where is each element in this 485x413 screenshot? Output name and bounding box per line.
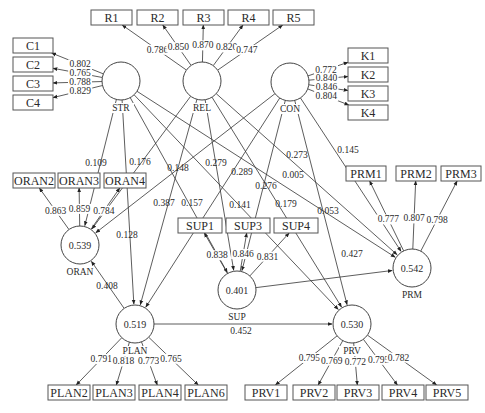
loading-value: 0.772 <box>345 357 367 367</box>
loading-value: 0.747 <box>236 45 258 55</box>
path-coefficient: 0.128 <box>116 230 138 240</box>
loading-value: 0.804 <box>316 91 338 101</box>
indicator-label: ORAN4 <box>105 174 145 188</box>
latent-circle <box>271 63 309 101</box>
indicator-c1: C1 <box>13 38 53 53</box>
path-sup-prm <box>256 270 392 287</box>
indicator-sup4: SUP4 <box>274 218 318 233</box>
latent-prm: 0.542PRM <box>393 249 431 300</box>
indicator-prm2: PRM2 <box>396 166 436 181</box>
indicator-label: PRM3 <box>445 167 476 181</box>
indicator-label: PLAN6 <box>187 386 224 400</box>
r-squared: 0.539 <box>69 240 92 251</box>
indicator-label: R5 <box>286 11 300 25</box>
indicator-prv4: PRV4 <box>382 385 424 400</box>
indicator-r2: R2 <box>137 10 178 25</box>
latent-label: PLAN <box>123 346 148 356</box>
indicator-label: R3 <box>196 11 210 25</box>
latent-label: PRM <box>402 290 423 300</box>
loading-value: 0.773 <box>138 356 160 366</box>
indicator-label: K2 <box>361 68 376 82</box>
path-coefficient: 0.387 <box>153 198 175 208</box>
loading-value: 0.769 <box>321 356 343 366</box>
path-coefficient: 0.427 <box>341 249 363 259</box>
loading-value: 0.829 <box>70 86 92 96</box>
indicator-label: R2 <box>150 11 164 25</box>
indicator-prm1: PRM1 <box>346 166 386 181</box>
latent-label: STR <box>112 103 130 113</box>
loading-value: 0.791 <box>91 354 113 364</box>
latent-label: SUP <box>228 312 245 322</box>
path-coefficient: 0.176 <box>129 157 151 167</box>
loading-value: 0.859 <box>69 204 91 214</box>
loading-value: 0.850 <box>168 42 190 52</box>
r-squared: 0.519 <box>124 319 147 330</box>
latent-circle <box>102 62 140 100</box>
indicator-label: R1 <box>104 11 118 25</box>
indicator-r1: R1 <box>91 10 132 25</box>
indicator-label: SUP4 <box>282 219 310 233</box>
indicator-c3: C3 <box>13 76 53 91</box>
indicator-prv2: PRV2 <box>293 385 335 400</box>
indicator-plan4: PLAN4 <box>139 385 181 400</box>
latent-label: CON <box>280 104 300 114</box>
indicator-r3: R3 <box>183 10 224 25</box>
indicator-plan6: PLAN6 <box>185 385 227 400</box>
path-coefficient: 0.289 <box>231 167 253 177</box>
pls-sem-path-diagram: 0.1090.1280.1570.0050.1410.1760.3870.279… <box>0 0 485 413</box>
loading-value: 0.863 <box>45 206 67 216</box>
path-coefficient: 0.273 <box>286 150 308 160</box>
indicator-label: PRV2 <box>300 386 328 400</box>
loading-value: 0.807 <box>403 213 425 223</box>
path-coefficient: 0.005 <box>282 170 304 180</box>
path-coefficient: 0.452 <box>230 326 252 336</box>
loading-value: 0.795 <box>299 353 321 363</box>
indicator-label: K1 <box>361 49 376 63</box>
latent-oran: 0.539ORAN <box>61 226 99 277</box>
indicator-prm3: PRM3 <box>441 166 481 181</box>
indicator-sup1: SUP1 <box>178 218 222 233</box>
indicator-label: SUP1 <box>186 219 214 233</box>
r-squared: 0.530 <box>341 319 364 330</box>
path-coefficient: 0.148 <box>167 163 189 173</box>
loading-value: 0.831 <box>257 252 279 262</box>
indicator-label: PLAN4 <box>141 386 178 400</box>
loading-value: 0.820 <box>216 42 238 52</box>
path-coefficient: 0.179 <box>275 199 297 209</box>
path-str-plan <box>122 100 134 304</box>
indicator-label: ORAN2 <box>14 174 54 188</box>
loading-value: 0.784 <box>93 206 115 216</box>
indicator-label: C2 <box>26 58 40 72</box>
indicator-oran2: ORAN2 <box>13 173 55 188</box>
indicator-label: K4 <box>361 106 376 120</box>
loading-value: 0.798 <box>426 215 448 225</box>
loading-value: 0.795 <box>368 355 390 365</box>
latent-label: REL <box>193 103 211 113</box>
indicator-label: ORAN3 <box>59 174 99 188</box>
indicator-prv1: PRV1 <box>245 385 287 400</box>
loading-value: 0.838 <box>206 250 228 260</box>
indicator-r4: R4 <box>228 10 269 25</box>
indicator-k3: K3 <box>348 86 388 101</box>
loading-value: 0.782 <box>388 353 410 363</box>
indicator-k1: K1 <box>348 48 388 63</box>
indicator-label: PLAN3 <box>95 386 132 400</box>
path-coefficient: 0.109 <box>85 158 107 168</box>
indicator-plan2: PLAN2 <box>48 385 90 400</box>
r-squared: 0.401 <box>226 285 249 296</box>
indicator-k2: K2 <box>348 67 388 82</box>
indicator-label: R4 <box>241 11 255 25</box>
loading-value: 0.846 <box>232 249 254 259</box>
path-coefficient: 0.408 <box>96 281 118 291</box>
path-coefficient: 0.279 <box>205 158 227 168</box>
indicator-label: C1 <box>26 39 40 53</box>
indicator-c2: C2 <box>13 57 53 72</box>
indicator-sup3: SUP3 <box>226 218 270 233</box>
loading-value: 0.786 <box>147 45 169 55</box>
indicator-label: PRV5 <box>433 386 461 400</box>
latent-label: ORAN <box>67 267 94 277</box>
latent-plan: 0.519PLAN <box>116 305 154 356</box>
path-coefficient: 0.141 <box>229 200 251 210</box>
indicator-label: PRV3 <box>344 386 372 400</box>
indicator-k4: K4 <box>348 105 388 120</box>
